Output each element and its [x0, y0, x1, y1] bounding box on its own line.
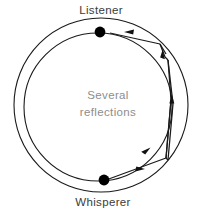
ray-segment-8 — [165, 57, 168, 60]
outer-circle — [14, 18, 188, 192]
arrowhead-lower-right — [141, 148, 150, 155]
arrowhead-toward-listener — [124, 30, 134, 35]
gallery-figure: Listener Whisperer Several reflections — [0, 0, 202, 212]
listener-label: Listener — [79, 4, 123, 16]
whisperer-label: Whisperer — [75, 196, 131, 208]
whisperer-dot — [99, 175, 110, 186]
center-label-line2: reflections — [80, 106, 136, 118]
whispering-gallery-diagram: Listener Whisperer Several reflections — [0, 0, 202, 212]
center-label-line1: Several — [87, 89, 128, 101]
listener-dot — [95, 27, 106, 38]
